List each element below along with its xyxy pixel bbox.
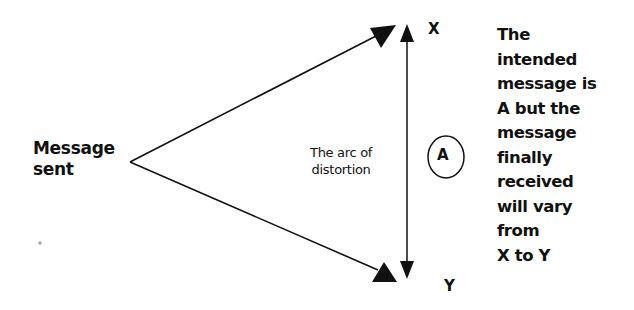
arc-of-distortion-label: The arc of distortion <box>310 144 372 178</box>
explanation-line: intended <box>497 48 596 73</box>
explanation-line: message <box>497 121 596 146</box>
explanation-text: The intended message is A but the messag… <box>497 23 596 268</box>
explanation-line: from <box>497 219 596 244</box>
arc-label-line-1: The arc of <box>310 144 372 161</box>
explanation-line: X to Y <box>497 244 596 269</box>
explanation-line: will vary <box>497 195 596 220</box>
arc-label-line-2: distortion <box>310 161 372 178</box>
message-sent-line-2: sent <box>33 159 115 180</box>
explanation-line: message is <box>497 72 596 97</box>
explanation-line: The <box>497 23 596 48</box>
upper-path-line <box>130 35 378 162</box>
x-label: X <box>428 20 440 38</box>
lower-path-line <box>130 162 378 270</box>
arrow-down-icon <box>400 261 414 279</box>
intended-message-a-label: A <box>437 146 449 164</box>
message-sent-label: Message sent <box>33 138 115 180</box>
explanation-line: A but the <box>497 97 596 122</box>
distortion-diagram: Message sent The arc of distortion X Y A… <box>0 0 634 310</box>
speck-dot <box>38 241 42 245</box>
message-sent-line-1: Message <box>33 138 115 159</box>
explanation-line: received <box>497 170 596 195</box>
y-label: Y <box>444 277 455 295</box>
arrow-up-icon <box>400 24 414 42</box>
explanation-line: finally <box>497 146 596 171</box>
lower-arrowhead-icon <box>372 262 397 282</box>
